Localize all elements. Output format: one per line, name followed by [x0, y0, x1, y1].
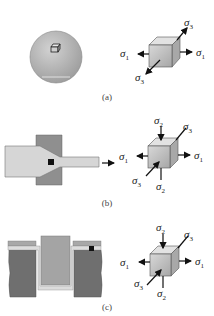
die-left — [9, 250, 36, 297]
sigma3-bottom-label-b: σ3 — [132, 174, 141, 189]
sigma1-left-label-b: σ1 — [119, 150, 128, 165]
sigma1-right-label-a: σ1 — [196, 46, 205, 61]
stress-cube-a — [138, 28, 192, 74]
sigma3-bottom-label-a: σ3 — [135, 71, 144, 86]
stress-cube-b — [137, 126, 190, 180]
panel-b: σ2 σ3 σ1 σ1 σ3 σ2 — [5, 114, 203, 195]
caption-a: (a) — [0, 92, 214, 102]
sphere-specimen — [30, 31, 82, 83]
sigma3-top-label-b: σ3 — [183, 120, 192, 135]
stress-cube-c — [139, 234, 191, 288]
sigma3-top-label-c: σ3 — [184, 228, 193, 243]
punch — [41, 236, 70, 285]
sigma2-bottom-label-c: σ2 — [157, 287, 166, 302]
element-marker-icon — [89, 246, 94, 251]
sigma1-right-label-c: σ1 — [195, 255, 204, 270]
sigma3-top-label-a: σ3 — [184, 16, 193, 31]
sigma1-left-label-c: σ1 — [120, 256, 129, 271]
element-marker-icon — [48, 159, 54, 165]
sigma1-right-label-b: σ1 — [194, 149, 203, 164]
panel-a: σ1 σ1 σ3 σ3 — [30, 16, 205, 86]
caption-c: (c) — [0, 302, 214, 312]
caption-b: (b) — [0, 198, 214, 208]
element-marker-icon — [51, 44, 60, 52]
sigma1-left-label-a: σ1 — [120, 47, 129, 62]
sigma2-bottom-label-b: σ2 — [156, 180, 165, 195]
sigma2-top-label-c: σ2 — [156, 221, 165, 236]
panel-c: σ2 σ3 σ1 σ1 σ3 σ2 — [8, 221, 204, 302]
sigma3-bottom-label-c: σ3 — [134, 277, 143, 292]
stress-state-figure: σ1 σ1 σ3 σ3 σ2 σ3 σ1 σ1 σ3 σ — [0, 0, 214, 316]
die-right — [74, 250, 102, 297]
sigma2-top-label-b: σ2 — [154, 114, 163, 129]
